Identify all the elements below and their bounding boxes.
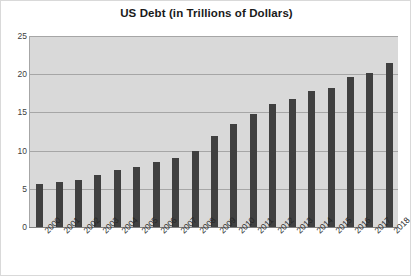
x-axis: 2000200120022003200420052006200720082009… [29,229,398,269]
x-tick-label: 2013 [295,229,301,235]
x-tick-label: 2001 [62,229,68,235]
y-tick-label: 5 [3,185,27,193]
bar [36,184,43,227]
page-title: US Debt (in Trillions of Dollars) [1,6,411,20]
x-tick-label: 2000 [43,229,49,235]
x-tick-label: 2014 [315,229,321,235]
x-tick-label: 2018 [392,229,398,235]
bar [328,88,335,227]
x-tick-label: 2006 [159,229,165,235]
x-tick-label: 2002 [82,229,88,235]
chart-container: US Debt (in Trillions of Dollars) 051015… [0,0,411,276]
x-tick-label: 2010 [237,229,243,235]
gridline [30,112,398,113]
x-tick-label: 2016 [353,229,359,235]
bar [289,99,296,227]
y-tick-label: 25 [3,32,27,40]
x-tick-label: 2012 [276,229,282,235]
x-tick-label: 2009 [218,229,224,235]
y-tick-label: 10 [3,147,27,155]
y-tick-label: 20 [3,70,27,78]
bar [230,124,237,227]
gridline [30,36,398,37]
y-tick-label: 0 [3,223,27,231]
bar [366,73,373,227]
bar [386,63,393,227]
x-tick-label: 2003 [101,229,107,235]
x-tick-label: 2004 [120,229,126,235]
bottom-caption [7,269,406,276]
x-tick-label: 2011 [256,229,262,235]
bar [308,91,315,227]
gridline [30,74,398,75]
bar [211,136,218,227]
y-tick-label: 15 [3,108,27,116]
x-tick-label: 2015 [334,229,340,235]
bar [250,114,257,227]
x-tick-label: 2017 [373,229,379,235]
x-tick-label: 2007 [179,229,185,235]
bar [269,104,276,227]
y-axis: 0510152025 [1,1,27,276]
plot-area [29,36,398,227]
x-tick-label: 2008 [198,229,204,235]
x-tick-label: 2005 [140,229,146,235]
bar [347,77,354,227]
